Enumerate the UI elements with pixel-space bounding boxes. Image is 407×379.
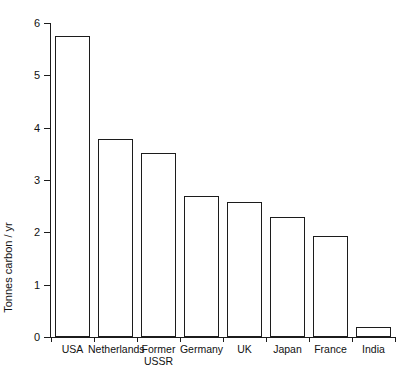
y-tick-mark (44, 285, 50, 286)
bar[interactable] (313, 236, 347, 337)
x-tick-label: India (346, 343, 401, 355)
y-tick-mark (44, 232, 50, 233)
plot-area (51, 23, 395, 337)
x-tick-mark (395, 337, 396, 342)
bar[interactable] (227, 202, 261, 337)
y-tick-label: 5 (18, 70, 40, 81)
bar[interactable] (98, 139, 132, 337)
bar[interactable] (356, 327, 390, 337)
bar[interactable] (141, 153, 175, 337)
bar-slot (184, 23, 218, 337)
y-axis-title-label: Tonnes carbon / yr (0, 78, 16, 379)
x-tick-mark (352, 337, 353, 342)
x-tick-mark (51, 337, 52, 342)
y-tick-label: 2 (18, 227, 40, 238)
y-tick-label: 3 (18, 175, 40, 186)
bar-slot (313, 23, 347, 337)
x-tick-mark (94, 337, 95, 342)
bar-slot (98, 23, 132, 337)
bar-slot (141, 23, 175, 337)
y-tick-mark (44, 23, 50, 24)
bar-slot (356, 23, 390, 337)
x-tick-mark (223, 337, 224, 342)
y-tick-mark (44, 128, 50, 129)
x-tick-mark (266, 337, 267, 342)
x-tick-mark (180, 337, 181, 342)
bar-slot (227, 23, 261, 337)
y-tick-label: 6 (18, 18, 40, 29)
x-tick-mark (309, 337, 310, 342)
y-tick-mark (44, 180, 50, 181)
bar[interactable] (270, 217, 304, 337)
bar-slot (55, 23, 89, 337)
y-tick-mark (44, 337, 50, 338)
bar-slot (270, 23, 304, 337)
y-tick-mark (44, 75, 50, 76)
bar[interactable] (184, 196, 218, 337)
y-axis-title: Tonnes carbon / yr (0, 0, 16, 379)
y-tick-label: 4 (18, 123, 40, 134)
x-tick-mark (137, 337, 138, 342)
y-tick-label: 0 (18, 332, 40, 343)
bar-chart: Tonnes carbon / yr 0123456 USANetherland… (0, 0, 407, 379)
bar[interactable] (55, 36, 89, 337)
y-tick-label: 1 (18, 280, 40, 291)
